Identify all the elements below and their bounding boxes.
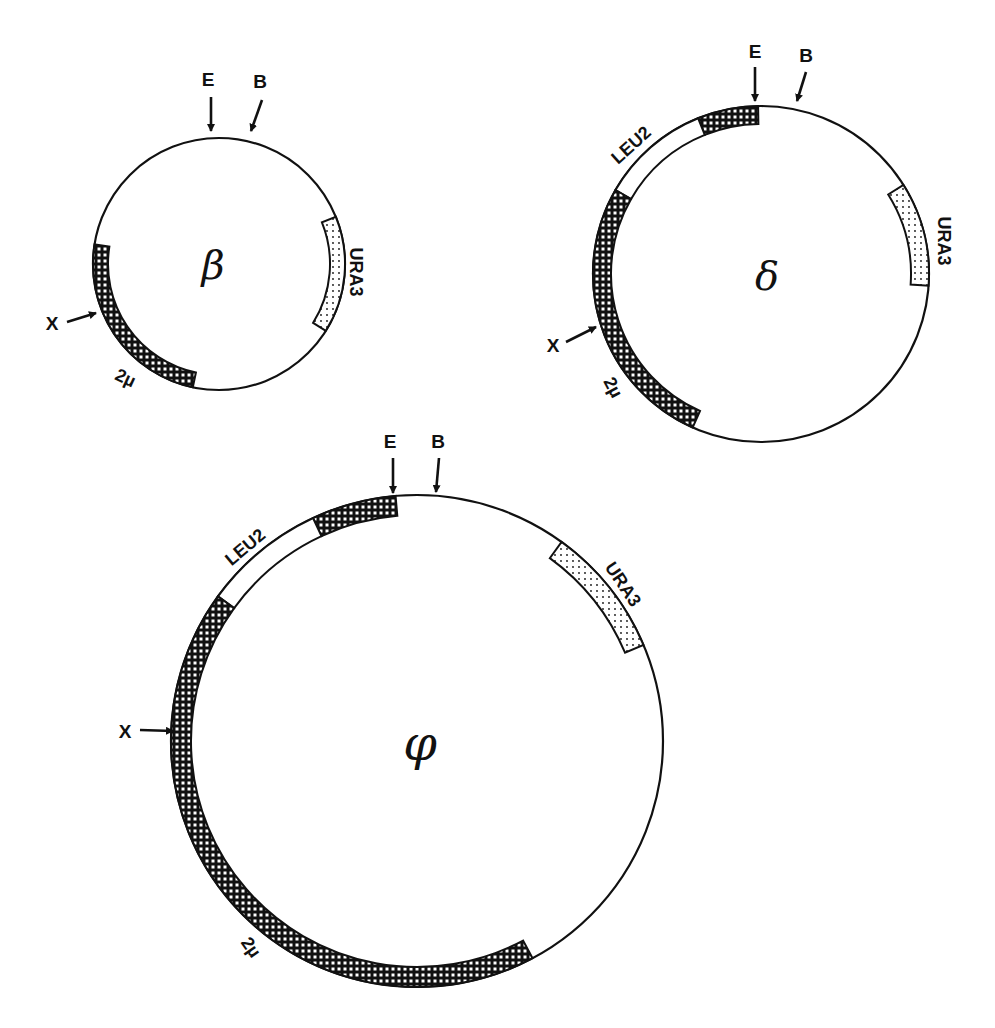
- site-label-e: E: [749, 41, 762, 62]
- segment-ura3: [313, 217, 345, 331]
- gene-label-2mu: 2µ: [112, 364, 139, 391]
- segment-2mu: [171, 596, 532, 987]
- site-label-b: B: [431, 431, 445, 452]
- site-label-b: B: [799, 45, 813, 66]
- site-label-e: E: [384, 431, 397, 452]
- plasmid-figure: βEBXURA32µ δEBXLEU2URA32µ φEBXLEU2URA32µ: [0, 0, 995, 1028]
- site-arrow-icon: [566, 327, 596, 342]
- site-label-x: X: [547, 335, 560, 356]
- site-arrow-icon: [251, 100, 262, 131]
- site-arrow-icon: [797, 72, 806, 101]
- plasmid-name: φ: [403, 715, 437, 771]
- site-label-e: E: [202, 69, 215, 90]
- gene-label-ura3: URA3: [934, 216, 954, 265]
- plasmid-phi: φEBXLEU2URA32µ: [119, 431, 663, 987]
- site-label-x: X: [46, 313, 59, 334]
- plasmid-name: β: [199, 242, 224, 288]
- site-arrow-icon: [67, 313, 96, 322]
- segment-2mu: [313, 496, 397, 536]
- segment-2mu: [698, 106, 758, 135]
- site-arrow-icon: [140, 730, 173, 731]
- site-label-x: X: [119, 721, 132, 742]
- segment-2mu: [93, 244, 196, 387]
- plasmid-beta: βEBXURA32µ: [46, 69, 367, 391]
- segment-ura3: [888, 185, 929, 286]
- site-arrow-icon: [436, 458, 439, 492]
- plasmid-diagram: βEBXURA32µ δEBXLEU2URA32µ φEBXLEU2URA32µ: [0, 0, 995, 1028]
- gene-label-2mu: 2µ: [599, 374, 626, 401]
- gene-label-2mu: 2µ: [237, 933, 265, 961]
- gene-label-ura3: URA3: [346, 247, 366, 296]
- plasmid-name: δ: [755, 253, 779, 299]
- site-label-b: B: [253, 71, 267, 92]
- plasmid-delta: δEBXLEU2URA32µ: [547, 41, 955, 442]
